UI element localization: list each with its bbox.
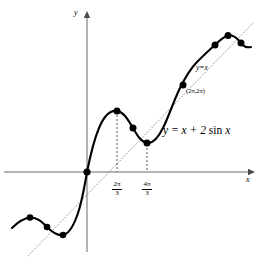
point-local-max-2pi-3 <box>114 108 121 115</box>
tick-denominator: 3 <box>112 190 121 197</box>
tick-denominator: 3 <box>142 190 151 197</box>
x-tick-label-4pi-over-3: 4π3 <box>136 181 158 198</box>
point-inflection-right <box>225 32 232 39</box>
point-local-max-right <box>212 42 219 49</box>
curve-equation-function: sin <box>209 124 222 136</box>
point-local-min-left <box>60 232 67 239</box>
reference-line-label: y=x <box>196 64 208 72</box>
y-axis-label: y <box>74 9 78 17</box>
point-local-max-left <box>27 214 34 221</box>
curve-equation-label: y = x + 2 sin x <box>163 125 230 137</box>
point-inflection-pi <box>130 125 137 132</box>
x-axis-label: x <box>246 176 250 184</box>
y-axis-arrowhead <box>84 11 90 18</box>
point-origin <box>83 168 90 175</box>
x-tick-label-2pi-over-3: 2π3 <box>106 181 128 198</box>
point-inflection-left <box>44 224 51 231</box>
point-coordinate-label: (2π,2π) <box>186 88 205 95</box>
function-graph-figure: y x y=x (2π,2π) y = x + 2 sin x 2π3 4π3 <box>0 0 261 257</box>
curve-equation-lhs: y = x + 2 <box>163 124 209 136</box>
curve-equation-argument: x <box>222 124 230 136</box>
tick-numerator: 4π <box>142 181 151 188</box>
point-local-min-right <box>238 40 245 47</box>
point-local-min-4pi-3 <box>144 140 151 147</box>
tick-numerator: 2π <box>112 181 121 188</box>
